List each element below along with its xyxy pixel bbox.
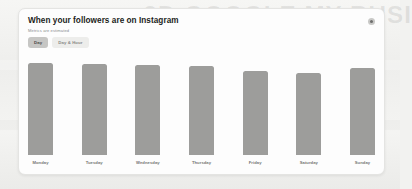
bar-column[interactable] [28, 55, 53, 155]
followers-activity-card: When your followers are on Instagram Met… [18, 8, 385, 175]
info-icon-dot [370, 20, 373, 23]
bar-column[interactable] [243, 55, 268, 155]
bar-label: Tuesday [82, 160, 107, 165]
card-subtitle: Metrics are estimated [28, 27, 374, 34]
toggle-day-hour-button[interactable]: Day & Hour [52, 37, 88, 48]
bar-label: Saturday [296, 160, 321, 165]
chart-bar[interactable] [28, 63, 53, 155]
followers-activity-chart: MondayTuesdayWednesdayThursdayFridaySatu… [28, 55, 375, 166]
bar-column[interactable] [296, 55, 321, 155]
card-header: When your followers are on Instagram Met… [19, 9, 384, 34]
bar-label: Wednesday [135, 160, 160, 165]
bar-column[interactable] [135, 55, 160, 155]
page-title: When your followers are on Instagram [28, 16, 374, 26]
bar-label: Thursday [189, 160, 214, 165]
chart-bar[interactable] [189, 66, 214, 155]
chart-bar[interactable] [296, 73, 321, 155]
bar-label: Sunday [350, 160, 375, 165]
chart-bar[interactable] [350, 68, 375, 155]
bar-label: Friday [243, 160, 268, 165]
bar-column[interactable] [82, 55, 107, 155]
toggle-day-button[interactable]: Day [28, 37, 48, 48]
bar-column[interactable] [189, 55, 214, 155]
view-toggle-group: Day Day & Hour [28, 37, 89, 48]
bar-label: Monday [28, 160, 53, 165]
chart-bar[interactable] [243, 71, 268, 155]
chart-plot-area: MondayTuesdayWednesdayThursdayFridaySatu… [28, 55, 375, 155]
info-circle-icon[interactable] [368, 18, 375, 25]
bar-column[interactable] [350, 55, 375, 155]
chart-bar[interactable] [135, 65, 160, 155]
chart-bar[interactable] [82, 64, 107, 155]
